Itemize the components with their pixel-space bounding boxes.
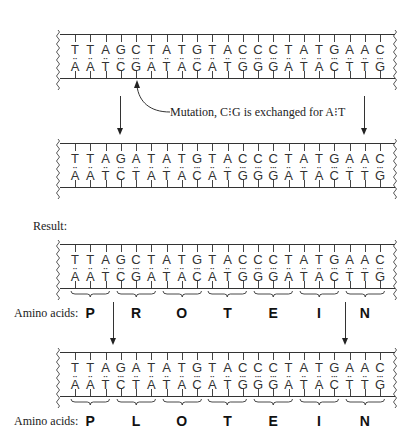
codon-brace-icon bbox=[207, 291, 248, 299]
backbone-tick bbox=[182, 353, 183, 360]
codon-brace-icon bbox=[207, 399, 248, 407]
backbone-tick bbox=[289, 35, 290, 42]
backbone-bottom bbox=[60, 187, 395, 188]
backbone-tick bbox=[228, 245, 229, 252]
dna-panel-mutated: T··AT··AA··TG···CA··TT··AA··TT··AG···CT·… bbox=[0, 139, 420, 199]
base-bottom: T bbox=[297, 378, 311, 391]
base-bottom: T bbox=[358, 270, 372, 283]
backbone-tick bbox=[75, 144, 76, 151]
backbone-tick bbox=[75, 353, 76, 360]
backbone-tick bbox=[167, 245, 168, 252]
codon-brace-icon bbox=[299, 291, 340, 299]
base-bottom: G bbox=[373, 169, 387, 182]
base-bottom: A bbox=[282, 169, 296, 182]
caption-prefix: Mutation, bbox=[170, 105, 217, 119]
amino-acid: T bbox=[218, 413, 238, 429]
base-bottom: T bbox=[297, 60, 311, 73]
base-bottom: A bbox=[144, 60, 158, 73]
backbone-tick bbox=[273, 245, 274, 252]
base-bottom: G bbox=[129, 60, 143, 73]
backbone-tick bbox=[380, 144, 381, 151]
amino-acid: P bbox=[80, 413, 100, 429]
base-bottom: G bbox=[373, 378, 387, 391]
backbone-tick bbox=[380, 353, 381, 360]
base-bottom: C bbox=[190, 169, 204, 182]
backbone-tick bbox=[121, 245, 122, 252]
backbone-tick bbox=[350, 144, 351, 151]
base-bottom: A bbox=[68, 169, 82, 182]
amino-acid: O bbox=[172, 305, 192, 321]
base-bottom: G bbox=[266, 270, 280, 283]
base-bottom: A bbox=[68, 378, 82, 391]
backbone-bottom bbox=[60, 288, 395, 289]
base-bottom: G bbox=[236, 169, 250, 182]
base-bottom: T bbox=[99, 270, 113, 283]
backbone-tick bbox=[258, 144, 259, 151]
base-bottom: A bbox=[68, 270, 82, 283]
amino-acid: I bbox=[309, 305, 329, 321]
backbone-tick bbox=[136, 144, 137, 151]
backbone-tick bbox=[365, 144, 366, 151]
amino-acid: N bbox=[355, 413, 375, 429]
base-bottom: A bbox=[83, 270, 97, 283]
backbone-tick bbox=[273, 35, 274, 42]
backbone-tick bbox=[334, 245, 335, 252]
backbone-tick bbox=[334, 35, 335, 42]
amino-acid: N bbox=[355, 305, 375, 321]
codon-brace-icon bbox=[162, 291, 203, 299]
base-bottom: T bbox=[358, 378, 372, 391]
backbone-tick bbox=[167, 353, 168, 360]
base-bottom: G bbox=[266, 60, 280, 73]
base-bottom: A bbox=[83, 60, 97, 73]
backbone-tick bbox=[197, 144, 198, 151]
backbone-tick bbox=[243, 353, 244, 360]
base-bottom: G bbox=[251, 169, 265, 182]
base-bottom: A bbox=[175, 60, 189, 73]
base-bottom: G bbox=[236, 60, 250, 73]
base-bottom: G bbox=[251, 378, 265, 391]
backbone-tick bbox=[212, 353, 213, 360]
base-bottom: A bbox=[144, 378, 158, 391]
codon-brace-icon bbox=[70, 399, 111, 407]
backbone-tick bbox=[121, 353, 122, 360]
down-arrow-codon7 bbox=[345, 302, 346, 340]
mutation-caption: Mutation, C⁝G is exchanged for A⁝T bbox=[170, 105, 345, 120]
down-arrow-right bbox=[364, 96, 365, 130]
backbone-tick bbox=[334, 144, 335, 151]
base-bottom: C bbox=[114, 378, 128, 391]
backbone-tick bbox=[228, 35, 229, 42]
amino-acid: E bbox=[263, 305, 283, 321]
base-bottom: T bbox=[297, 169, 311, 182]
base-bottom: A bbox=[205, 378, 219, 391]
codon-brace-icon bbox=[299, 399, 340, 407]
backbone-tick bbox=[319, 35, 320, 42]
backbone-tick bbox=[182, 35, 183, 42]
base-bottom: C bbox=[327, 378, 341, 391]
backbone-tick bbox=[258, 353, 259, 360]
backbone-tick bbox=[304, 144, 305, 151]
codon-brace-icon bbox=[116, 291, 157, 299]
backbone-tick bbox=[151, 35, 152, 42]
base-bottom: A bbox=[205, 270, 219, 283]
base-bottom: G bbox=[373, 60, 387, 73]
backbone-tick bbox=[197, 35, 198, 42]
base-bottom: T bbox=[343, 270, 357, 283]
base-bottom: A bbox=[83, 169, 97, 182]
backbone-tick bbox=[273, 353, 274, 360]
base-bottom: T bbox=[221, 60, 235, 73]
base-bottom: T bbox=[358, 60, 372, 73]
backbone-tick bbox=[350, 353, 351, 360]
backbone-tick bbox=[167, 35, 168, 42]
backbone-tick bbox=[319, 144, 320, 151]
backbone-bottom bbox=[60, 78, 395, 79]
base-bottom: A bbox=[68, 60, 82, 73]
backbone-tick bbox=[350, 245, 351, 252]
base-bottom: C bbox=[190, 60, 204, 73]
base-bottom: A bbox=[282, 378, 296, 391]
base-bottom: C bbox=[114, 60, 128, 73]
backbone-tick bbox=[167, 144, 168, 151]
backbone-tick bbox=[365, 245, 366, 252]
strand-break-wavy-icon bbox=[391, 30, 399, 90]
caption-to-base: A bbox=[325, 105, 334, 119]
backbone-tick bbox=[228, 353, 229, 360]
